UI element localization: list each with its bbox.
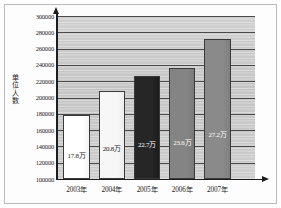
x-axis-category-label: 2006年: [165, 184, 199, 194]
y-axis-tick-label: 180000: [2, 110, 54, 117]
x-axis-category-labels: 2003年2004年2005年2006年2007年: [57, 184, 255, 198]
bar-chart: 3000002800002600002400002200002000001800…: [0, 0, 281, 208]
bar-series: 17.8万20.8万22.7万23.6万27.2万: [57, 16, 255, 179]
x-axis-category-label: 2007年: [200, 184, 234, 194]
bar-value-label: 23.6万: [170, 137, 194, 147]
y-axis-tick-label: 100000: [2, 176, 54, 183]
bar-value-label: 22.7万: [135, 139, 159, 149]
x-axis-category-label: 2003年: [59, 184, 93, 194]
x-axis-category-label: 2005年: [130, 184, 164, 194]
bar-value-label: 27.2万: [205, 129, 229, 139]
bar: 22.7万: [134, 76, 160, 180]
y-axis-title: 单位:人数: [7, 74, 19, 104]
y-axis-tick-label: 240000: [2, 61, 54, 68]
bar: 17.8万: [63, 115, 89, 179]
bar: 20.8万: [99, 91, 125, 179]
y-axis-tick-label: 280000: [2, 29, 54, 36]
bar-value-label: 20.8万: [100, 143, 124, 153]
bar-value-label: 17.8万: [64, 150, 88, 160]
y-axis-tick-label: 160000: [2, 127, 54, 134]
y-axis-tick-label: 260000: [2, 45, 54, 52]
y-axis-tick-labels: 3000002800002600002400002200002000001800…: [0, 0, 54, 208]
chart-screenshot: 3000002800002600002400002200002000001800…: [0, 0, 281, 208]
bar: 23.6万: [169, 68, 195, 179]
x-axis-category-label: 2004年: [95, 184, 129, 194]
y-axis-tick-label: 300000: [2, 13, 54, 20]
x-axis-arrow-icon: [262, 176, 269, 182]
y-axis-tick-label: 140000: [2, 143, 54, 150]
bar: 27.2万: [204, 39, 230, 179]
y-axis-tick-label: 120000: [2, 159, 54, 166]
